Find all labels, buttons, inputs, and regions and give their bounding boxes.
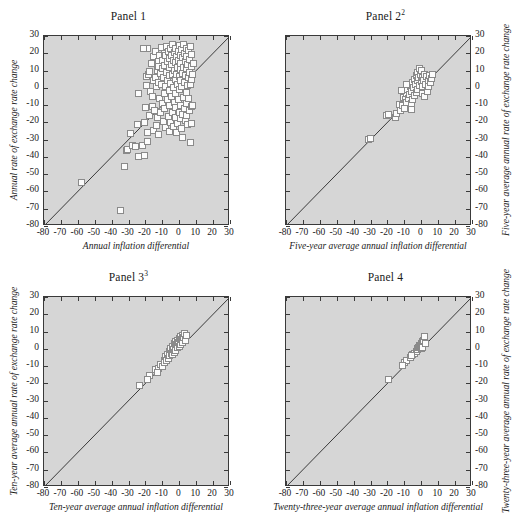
x-tick-bottom bbox=[472, 481, 473, 485]
x-tick-label: -50 bbox=[87, 228, 100, 238]
x-tick-bottom bbox=[421, 220, 422, 224]
x-tick-bottom bbox=[455, 481, 456, 485]
y-tick-left bbox=[44, 88, 48, 89]
x-tick-label: -60 bbox=[312, 489, 325, 499]
x-tick-bottom bbox=[213, 481, 214, 485]
panel-3-title: Panel 33 bbox=[0, 271, 257, 283]
x-tick-top bbox=[354, 297, 355, 301]
y-tick-label: 10 bbox=[475, 65, 485, 75]
x-tick-bottom bbox=[371, 481, 372, 485]
y-tick-left bbox=[44, 383, 48, 384]
x-tick-label: -40 bbox=[104, 489, 117, 499]
y-tick-label: 10 bbox=[475, 326, 485, 336]
y-tick-left bbox=[44, 418, 48, 419]
plot-inner-panel-1 bbox=[44, 36, 228, 224]
y-tick-right bbox=[466, 470, 470, 471]
data-point bbox=[135, 90, 142, 97]
y-tick-label: -70 bbox=[475, 464, 488, 474]
y-tick-left bbox=[44, 191, 48, 192]
y-tick-left bbox=[286, 383, 290, 384]
x-tick-top bbox=[387, 36, 388, 40]
x-tick-label: -80 bbox=[279, 228, 292, 238]
x-tick-bottom bbox=[387, 220, 388, 224]
y-tick-right bbox=[466, 383, 470, 384]
y-tick-left bbox=[286, 174, 290, 175]
y-tick-right bbox=[224, 88, 228, 89]
data-point bbox=[188, 51, 195, 58]
x-tick-top bbox=[421, 297, 422, 301]
x-tick-top bbox=[162, 297, 163, 301]
x-tick-bottom bbox=[162, 220, 163, 224]
x-tick-bottom bbox=[337, 220, 338, 224]
y-tick-right bbox=[224, 418, 228, 419]
x-tick-top bbox=[455, 36, 456, 40]
y-tick-right bbox=[224, 366, 228, 367]
y-tick-right bbox=[224, 53, 228, 54]
reference-line-panel-1 bbox=[44, 36, 228, 224]
x-tick-label: 0 bbox=[176, 228, 181, 238]
x-tick-top bbox=[404, 36, 405, 40]
y-tick-label: 30 bbox=[475, 30, 485, 40]
x-tick-label: -50 bbox=[329, 489, 342, 499]
data-point bbox=[188, 120, 195, 127]
x-tick-top bbox=[112, 36, 113, 40]
x-tick-bottom bbox=[354, 481, 355, 485]
x-tick-bottom bbox=[162, 481, 163, 485]
x-tick-bottom bbox=[129, 481, 130, 485]
x-tick-top bbox=[404, 297, 405, 301]
y-tick-right bbox=[466, 452, 470, 453]
x-tick-top bbox=[145, 36, 146, 40]
x-tick-bottom bbox=[44, 481, 45, 485]
y-tick-left bbox=[286, 349, 290, 350]
reference-line-panel-2 bbox=[286, 36, 470, 224]
y-tick-left bbox=[286, 418, 290, 419]
x-axis-title: Five-year average annual inflation diffe… bbox=[289, 241, 466, 251]
x-tick-top bbox=[320, 36, 321, 40]
y-tick-right bbox=[224, 470, 228, 471]
x-tick-bottom bbox=[129, 220, 130, 224]
y-tick-left bbox=[286, 53, 290, 54]
y-tick-left bbox=[286, 401, 290, 402]
x-tick-bottom bbox=[320, 481, 321, 485]
x-tick-label: -70 bbox=[296, 228, 309, 238]
x-tick-bottom bbox=[145, 481, 146, 485]
y-tick-right bbox=[224, 157, 228, 158]
y-tick-right bbox=[466, 88, 470, 89]
x-tick-bottom bbox=[354, 220, 355, 224]
x-tick-label: -50 bbox=[87, 489, 100, 499]
data-point bbox=[121, 163, 128, 170]
x-tick-label: -70 bbox=[296, 489, 309, 499]
x-tick-top bbox=[213, 36, 214, 40]
x-tick-bottom bbox=[112, 481, 113, 485]
x-axis-title: Annual inflation differential bbox=[83, 241, 189, 251]
x-tick-label: 20 bbox=[449, 228, 459, 238]
plot-inner-panel-4 bbox=[286, 297, 470, 485]
x-tick-label: -10 bbox=[155, 228, 168, 238]
data-point bbox=[408, 352, 415, 359]
data-point bbox=[179, 134, 186, 141]
reference-line-panel-4 bbox=[286, 297, 470, 485]
x-tick-top bbox=[320, 297, 321, 301]
x-tick-bottom bbox=[371, 220, 372, 224]
x-tick-top bbox=[354, 36, 355, 40]
y-tick-right bbox=[466, 191, 470, 192]
panel-3-title-superscript: 3 bbox=[144, 269, 148, 278]
x-tick-bottom bbox=[95, 220, 96, 224]
y-tick-label: -50 bbox=[475, 168, 488, 178]
x-tick-top bbox=[129, 36, 130, 40]
panel-1-title: Panel 1 bbox=[0, 10, 257, 22]
x-tick-label: -20 bbox=[138, 228, 151, 238]
data-point bbox=[127, 130, 134, 137]
x-tick-top bbox=[387, 297, 388, 301]
x-tick-label: -30 bbox=[121, 489, 134, 499]
y-tick-left bbox=[286, 209, 290, 210]
plot-area-panel-3 bbox=[43, 296, 229, 486]
y-tick-left bbox=[44, 470, 48, 471]
y-tick-right bbox=[466, 435, 470, 436]
x-tick-top bbox=[179, 297, 180, 301]
panel-4: Panel 4 -80-70-60-50-40-30-20-100102030-… bbox=[257, 261, 514, 522]
y-tick-right bbox=[224, 349, 228, 350]
y-tick-right bbox=[224, 383, 228, 384]
y-tick-left bbox=[44, 122, 48, 123]
x-tick-top bbox=[371, 297, 372, 301]
